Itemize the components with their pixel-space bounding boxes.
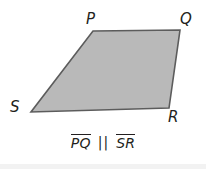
trapezoid-polygon — [31, 30, 180, 112]
bottom-edge-band — [0, 164, 206, 169]
vertex-label-s: S — [10, 100, 20, 115]
figure-caption: PQ||SR — [0, 134, 206, 150]
vertex-label-q: Q — [180, 12, 192, 27]
geometry-figure: P Q R S PQ||SR — [0, 0, 206, 169]
segment-sr-label: SR — [116, 134, 135, 150]
parallel-symbol: || — [91, 135, 116, 149]
vertex-label-r: R — [168, 110, 179, 125]
segment-pq-label: PQ — [71, 134, 91, 150]
vertex-label-p: P — [86, 12, 95, 27]
